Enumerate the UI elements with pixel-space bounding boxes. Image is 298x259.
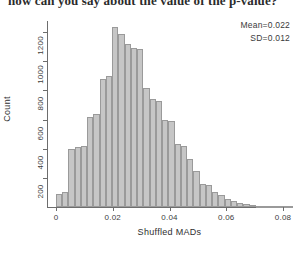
y-axis-tick-label: 400 — [36, 147, 45, 177]
x-axis-tick-label: 0.06 — [206, 213, 246, 222]
y-axis-title: Count — [2, 89, 12, 129]
y-axis-tick-label: 800 — [36, 89, 45, 119]
x-axis-tick — [113, 207, 114, 211]
x-axis-tick-label: 0 — [36, 213, 76, 222]
x-axis-tick — [170, 207, 171, 211]
x-axis-tick-label: 0.08 — [263, 213, 298, 222]
x-axis-tick-label: 0.04 — [150, 213, 190, 222]
x-axis-title: Shuffled MADs — [47, 227, 292, 237]
histogram-figure: 20040060080010001200 00.020.040.060.08 C… — [0, 9, 298, 259]
x-axis-tick — [283, 207, 284, 211]
x-axis-tick — [226, 207, 227, 211]
header-text: how can you say about the value of the p… — [8, 0, 277, 9]
x-axis-tick — [56, 207, 57, 211]
header-strip: how can you say about the value of the p… — [0, 0, 298, 9]
histogram-bar — [287, 206, 293, 208]
y-axis-tick-label: 1000 — [36, 60, 45, 90]
y-axis-tick-label: 1200 — [36, 31, 45, 61]
x-axis-tick-label: 0.02 — [93, 213, 133, 222]
y-axis-tick-label: 200 — [36, 176, 45, 206]
annotation-mean: Mean=0.022 — [241, 20, 291, 30]
y-axis-tick-label: 600 — [36, 118, 45, 148]
plot-area: 20040060080010001200 00.020.040.060.08 C… — [0, 9, 298, 259]
annotation-sd: SD=0.012 — [250, 33, 290, 43]
